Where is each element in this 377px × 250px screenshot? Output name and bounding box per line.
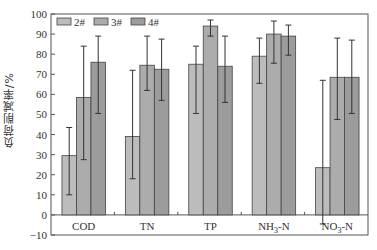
- x-category-label: TN: [140, 220, 155, 232]
- y-tick-label: 90: [36, 28, 48, 40]
- y-tick-label: 50: [36, 108, 48, 120]
- y-tick-label: 100: [31, 8, 48, 20]
- x-category-label: TP: [204, 220, 217, 232]
- legend-label: 2#: [74, 16, 86, 28]
- x-category-label: COD: [72, 220, 95, 232]
- x-category-label: NH3-N: [258, 220, 290, 235]
- y-tick-label: 80: [36, 48, 48, 60]
- y-tick-label: 0: [42, 209, 48, 221]
- y-tick-label: −10: [30, 229, 48, 241]
- legend-swatch: [131, 18, 145, 25]
- y-tick-label: 70: [36, 68, 48, 80]
- y-tick-label: 60: [36, 88, 48, 100]
- legend-label: 3#: [111, 16, 123, 28]
- bar-chart: −100102030405060708090100CODTNTPNH3-NNO3…: [0, 0, 377, 250]
- x-category-label: NO3-N: [322, 220, 354, 235]
- legend-swatch: [57, 18, 71, 25]
- legend-label: 4#: [148, 16, 160, 28]
- y-tick-label: 10: [36, 189, 48, 201]
- y-tick-label: 30: [36, 149, 48, 161]
- bar: [203, 26, 218, 215]
- legend-swatch: [94, 18, 108, 25]
- y-tick-label: 20: [36, 169, 48, 181]
- bar: [281, 36, 296, 215]
- y-tick-label: 40: [36, 129, 48, 141]
